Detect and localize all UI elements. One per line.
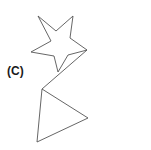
- figure-panel: (C): [0, 0, 151, 150]
- panel-label: (C): [7, 64, 24, 78]
